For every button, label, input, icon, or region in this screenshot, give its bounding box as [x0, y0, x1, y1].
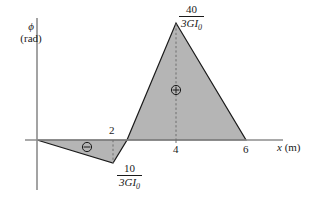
trough-numerator: 10: [117, 163, 142, 174]
tick-label-6: 6: [243, 143, 249, 155]
x-axis-unit: (m): [285, 141, 301, 153]
positive-sign-icon: [171, 85, 180, 94]
peak-value-label: 40 3GI0: [179, 4, 204, 32]
y-axis-label: ϕ (rad): [14, 21, 48, 44]
trough-denominator: 3GI0: [117, 177, 142, 191]
x-axis-label: x (m): [277, 141, 301, 153]
tick-label-4: 4: [173, 143, 179, 155]
tick-label-2: 2: [109, 124, 115, 136]
y-axis-symbol: ϕ: [14, 21, 48, 33]
peak-denominator: 3GI0: [179, 18, 204, 32]
negative-sign-icon: [82, 142, 91, 151]
trough-value-label: 10 3GI0: [117, 163, 142, 191]
peak-numerator: 40: [179, 4, 204, 15]
y-axis-unit: (rad): [14, 33, 48, 45]
